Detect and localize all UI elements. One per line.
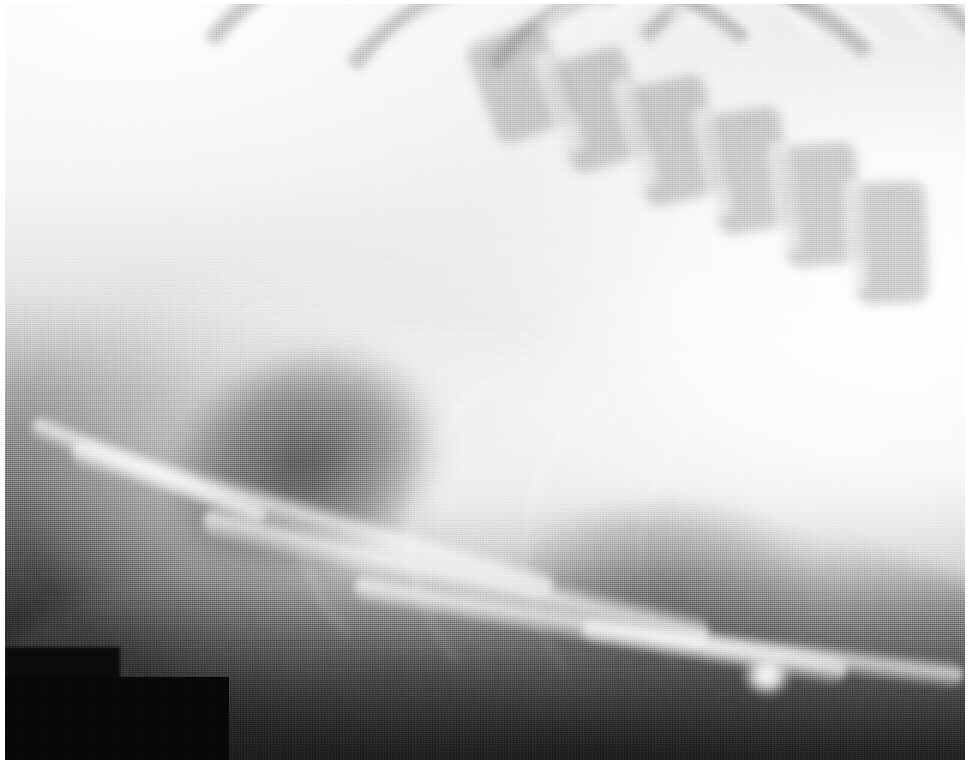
radiograph-viewer xyxy=(0,0,972,769)
label-redaction-block xyxy=(5,677,229,760)
image-caption xyxy=(0,0,1,1)
radiograph-image xyxy=(5,4,965,760)
